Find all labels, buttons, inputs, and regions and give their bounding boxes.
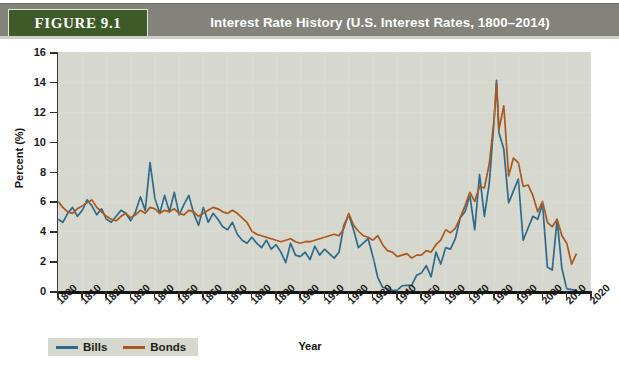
- legend-item-bills[interactable]: Bills: [56, 341, 107, 353]
- y-tick: [50, 82, 57, 84]
- y-tick-label: 4: [16, 226, 46, 237]
- y-tick-label: 10: [16, 137, 46, 148]
- figure-number-badge: FIGURE 9.1: [8, 9, 148, 37]
- plot-area: [57, 52, 591, 291]
- x-axis-title: Year: [265, 340, 355, 352]
- y-tick-label: 12: [16, 107, 46, 118]
- y-tick-label: 8: [16, 167, 46, 178]
- legend-swatch-bonds: [123, 346, 145, 349]
- series-lines: [58, 52, 591, 291]
- y-tick: [50, 291, 57, 293]
- y-tick: [50, 172, 57, 174]
- y-tick-label: 6: [16, 196, 46, 207]
- y-tick: [50, 142, 57, 144]
- y-tick-label: 2: [16, 256, 46, 267]
- legend-swatch-bills: [56, 346, 78, 349]
- line-bonds: [58, 83, 576, 264]
- y-tick: [50, 201, 57, 203]
- y-tick: [50, 112, 57, 114]
- y-tick-label: 16: [16, 47, 46, 58]
- legend-label-bills: Bills: [83, 341, 107, 353]
- figure-9-1: FIGURE 9.1 Interest Rate History (U.S. I…: [0, 0, 619, 369]
- chart-legend: Bills Bonds: [48, 338, 198, 356]
- y-tick: [50, 261, 57, 263]
- legend-item-bonds[interactable]: Bonds: [123, 341, 186, 353]
- y-tick: [50, 231, 57, 233]
- figure-title: Interest Rate History (U.S. Interest Rat…: [150, 9, 610, 35]
- y-tick-label: 0: [16, 286, 46, 297]
- figure-title-bar: FIGURE 9.1 Interest Rate History (U.S. I…: [0, 3, 619, 36]
- y-tick: [50, 52, 57, 54]
- legend-label-bonds: Bonds: [150, 341, 186, 353]
- chart-container: Percent (%) 0246810121416 18001810182018…: [0, 40, 619, 369]
- y-tick-label: 14: [16, 77, 46, 88]
